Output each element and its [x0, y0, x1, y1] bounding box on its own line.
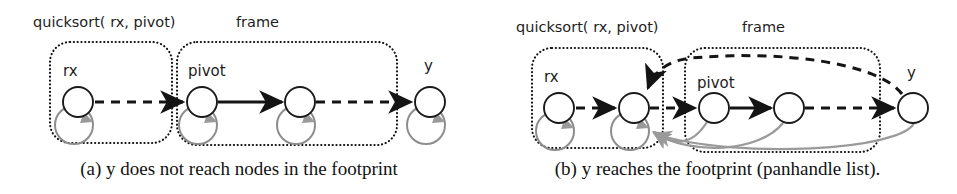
node-rx	[544, 93, 574, 123]
node-y	[415, 87, 445, 117]
label-rx: rx	[63, 62, 78, 80]
label-pivot: pivot	[697, 74, 735, 92]
figure-root: quicksort( rx, pivot) frame rx pivot y	[0, 0, 957, 194]
label-pivot: pivot	[188, 62, 226, 80]
label-quicksort-call: quicksort( rx, pivot)	[516, 19, 659, 35]
node-frame-2	[774, 93, 804, 123]
panel-b: quicksort( rx, pivot) frame rx pivot y	[478, 0, 957, 194]
node-pivot	[187, 87, 217, 117]
label-rx: rx	[544, 68, 559, 86]
panel-b-diagram: quicksort( rx, pivot) frame rx pivot y	[478, 0, 957, 160]
edge-y-back-to-rx2	[648, 56, 902, 94]
node-rx	[63, 87, 93, 117]
label-frame: frame	[742, 19, 785, 35]
node-rx-2	[619, 93, 649, 123]
node-y	[898, 93, 928, 123]
panel-a: quicksort( rx, pivot) frame rx pivot y	[0, 0, 478, 194]
node-pivot	[699, 93, 729, 123]
label-frame: frame	[236, 14, 279, 30]
label-quicksort-call: quicksort( rx, pivot)	[33, 14, 176, 30]
caption-a: (a) y does not reach nodes in the footpr…	[0, 158, 478, 180]
label-y: y	[907, 64, 916, 82]
edge-next-gray-to-rx2	[654, 123, 783, 148]
panel-a-diagram: quicksort( rx, pivot) frame rx pivot y	[0, 0, 478, 160]
node-frame-2	[285, 87, 315, 117]
caption-b: (b) y reaches the footprint (panhandle l…	[478, 158, 957, 180]
label-y: y	[424, 57, 433, 75]
